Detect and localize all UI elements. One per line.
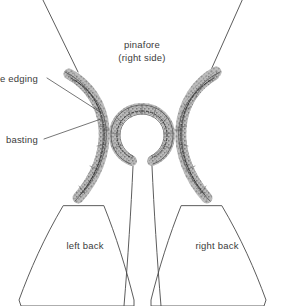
right-shoulder-edge — [211, 0, 244, 70]
label-basting: basting — [6, 134, 38, 145]
pinafore-diagram: pinafore (right side) e edging basting l… — [0, 0, 285, 306]
basting-leader — [44, 119, 101, 139]
title-line-2: (right side) — [118, 52, 165, 63]
left-shoulder-edge — [41, 0, 78, 72]
label-lace-edging: e edging — [0, 73, 38, 84]
label-left-back: left back — [66, 240, 103, 251]
neckline-trim — [111, 105, 173, 164]
diagram-canvas: pinafore (right side) e edging basting l… — [0, 0, 285, 306]
left-armhole-trim — [65, 72, 116, 201]
label-right-back: right back — [195, 240, 238, 251]
title-line-1: pinafore — [124, 39, 160, 50]
neck-trim-body — [116, 110, 168, 159]
right-back-panel — [151, 206, 266, 306]
right-armhole-trim — [169, 72, 220, 201]
left-back-panel — [19, 206, 134, 306]
